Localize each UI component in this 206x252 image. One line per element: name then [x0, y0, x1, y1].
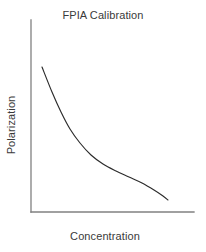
chart-figure: FPIA Calibration Polarization Concentrat… [0, 0, 206, 252]
plot-area [0, 0, 206, 252]
calibration-curve-line [42, 67, 168, 200]
